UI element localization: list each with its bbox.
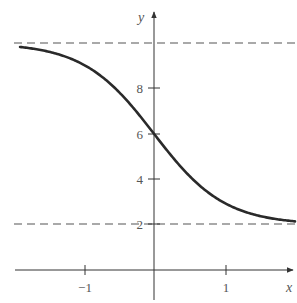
y-tick-label-2: 2 <box>137 217 144 232</box>
y-tick-label-4: 4 <box>137 172 144 187</box>
chart: −1 1 8 6 4 2 x y <box>0 0 297 303</box>
y-tick-label-6: 6 <box>137 127 144 142</box>
y-tick-label-8: 8 <box>137 81 144 96</box>
y-axis-label: y <box>136 10 145 25</box>
x-tick-label-neg1: −1 <box>78 280 92 295</box>
x-tick-label-1: 1 <box>223 280 230 295</box>
x-axis-label: x <box>285 280 293 295</box>
